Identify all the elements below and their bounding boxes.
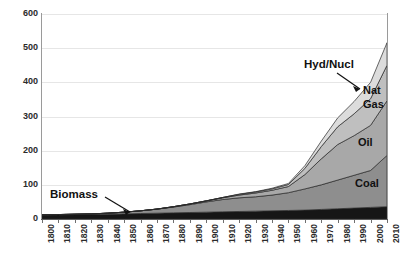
x-tick-mark-1940 [272, 220, 273, 223]
x-tick-label-1820: 1820 [79, 224, 89, 243]
x-tick-mark-1830 [91, 220, 92, 223]
x-tick-label-1980: 1980 [342, 224, 352, 243]
x-tick-mark-1810 [58, 220, 59, 223]
x-tick-mark-1970 [321, 220, 322, 223]
x-tick-label-1870: 1870 [161, 224, 171, 243]
x-tick-mark-1870 [157, 220, 158, 223]
y-tick-label-400: 400 [0, 77, 38, 86]
x-tick-label-1810: 1810 [62, 224, 72, 243]
y-tick-label-300: 300 [0, 112, 38, 121]
x-tick-label-1990: 1990 [358, 224, 368, 243]
x-tick-mark-1950 [288, 220, 289, 223]
x-tick-mark-1930 [256, 220, 257, 223]
y-tick-label-200: 200 [0, 146, 38, 155]
x-tick-label-1960: 1960 [309, 224, 319, 243]
x-tick-label-1970: 1970 [325, 224, 335, 243]
x-tick-mark-1920 [239, 220, 240, 223]
x-tick-label-1930: 1930 [260, 224, 270, 243]
x-tick-label-1910: 1910 [227, 224, 237, 243]
series-label-oil: Oil [358, 137, 373, 148]
x-tick-mark-1980 [338, 220, 339, 223]
annotation-biomass-arrow [104, 196, 140, 218]
x-tick-label-1830: 1830 [95, 224, 105, 243]
x-tick-mark-1840 [108, 220, 109, 223]
x-tick-label-1890: 1890 [194, 224, 204, 243]
y-tick-label-600: 600 [0, 9, 38, 18]
x-tick-mark-1900 [206, 220, 207, 223]
x-tick-label-1840: 1840 [112, 224, 122, 243]
x-tick-label-1860: 1860 [145, 224, 155, 243]
series-label-coal: Coal [355, 178, 379, 189]
stacked-area-chart: 6005004003002001000 18001810182018301840… [0, 0, 412, 262]
x-tick-label-2010: 2010 [391, 224, 401, 243]
y-tick-label-100: 100 [0, 180, 38, 189]
annotation-biomass-text: Biomass [50, 188, 98, 200]
x-tick-mark-1990 [354, 220, 355, 223]
x-tick-mark-1910 [223, 220, 224, 223]
x-tick-label-1940: 1940 [276, 224, 286, 243]
x-tick-mark-1850 [124, 220, 125, 223]
x-tick-mark-1890 [190, 220, 191, 223]
y-tick-label-500: 500 [0, 43, 38, 52]
annotation-hyd-nucl-text: Hyd/Nucl [304, 58, 354, 70]
x-tick-mark-1860 [141, 220, 142, 223]
x-tick-label-1950: 1950 [292, 224, 302, 243]
x-tick-label-1800: 1800 [46, 224, 56, 243]
x-tick-mark-2010 [387, 220, 388, 223]
x-tick-label-1900: 1900 [210, 224, 220, 243]
axis-line-bottom [41, 219, 388, 220]
x-tick-label-1880: 1880 [177, 224, 187, 243]
x-tick-label-2000: 2000 [375, 224, 385, 243]
x-tick-mark-2000 [371, 220, 372, 223]
y-tick-label-0: 0 [0, 214, 38, 223]
annotation-hyd-nucl-arrow [336, 72, 368, 96]
x-tick-mark-1960 [305, 220, 306, 223]
x-tick-label-1850: 1850 [128, 224, 138, 243]
x-tick-mark-1820 [75, 220, 76, 223]
x-tick-mark-1800 [42, 220, 43, 223]
axis-line-right [387, 13, 388, 220]
x-tick-mark-1880 [173, 220, 174, 223]
series-label-nat-gas-line2: Gas [363, 99, 384, 110]
x-tick-label-1920: 1920 [243, 224, 253, 243]
